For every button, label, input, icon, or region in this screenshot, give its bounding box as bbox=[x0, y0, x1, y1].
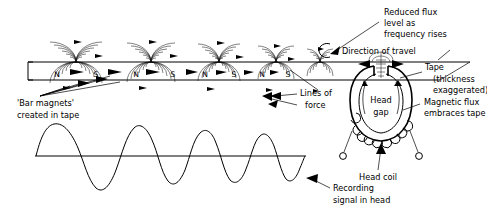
waveform-trace bbox=[36, 124, 305, 190]
svg-text:level as: level as bbox=[384, 18, 415, 28]
recording-signal-label: Recording signal in head bbox=[333, 183, 390, 205]
recording-signal-waveform bbox=[35, 124, 330, 190]
svg-text:gap: gap bbox=[373, 107, 388, 117]
pole-label: N bbox=[54, 70, 60, 79]
svg-text:(thickness: (thickness bbox=[433, 74, 475, 84]
svg-text:Magnetic flux: Magnetic flux bbox=[424, 97, 479, 107]
recording-signal-leader bbox=[306, 174, 330, 188]
lines-of-force-label: Lines of force bbox=[300, 88, 333, 110]
svg-text:'Bar magnets': 'Bar magnets' bbox=[17, 98, 74, 108]
tape-label: Tape (thickness exaggerated) bbox=[424, 62, 487, 95]
pole-label: S bbox=[286, 70, 291, 79]
pole-label: N bbox=[133, 70, 139, 79]
svg-text:exaggerated): exaggerated) bbox=[433, 85, 487, 95]
pole-label: N bbox=[259, 70, 265, 79]
head-gap-label: Head gap bbox=[370, 95, 391, 117]
svg-text:Head: Head bbox=[370, 95, 391, 105]
pole-label: N bbox=[202, 70, 208, 79]
svg-text:frequency rises: frequency rises bbox=[384, 29, 447, 39]
svg-text:Recording: Recording bbox=[333, 183, 374, 193]
diagram-canvas: N S N S N S N S bbox=[0, 0, 487, 217]
terminal-right bbox=[416, 153, 423, 160]
head-coil-label: Head coil bbox=[359, 172, 397, 182]
svg-text:Reduced flux: Reduced flux bbox=[384, 7, 437, 17]
bar-magnets-label: 'Bar magnets' created in tape bbox=[17, 98, 79, 120]
svg-text:force: force bbox=[305, 100, 326, 110]
svg-text:created in tape: created in tape bbox=[17, 110, 79, 120]
terminal-left bbox=[340, 153, 347, 160]
tape-recording-diagram: N S N S N S N S bbox=[0, 0, 487, 217]
svg-text:embraces tape: embraces tape bbox=[424, 108, 485, 118]
reduced-flux-label: Reduced flux level as frequency rises bbox=[384, 7, 447, 39]
pole-label: S bbox=[171, 70, 176, 79]
direction-of-travel-label: Direction of travel bbox=[342, 46, 416, 56]
bar-magnets-leaders bbox=[40, 76, 120, 96]
flux-loops-group bbox=[50, 40, 333, 93]
magnetic-flux-label: Magnetic flux embraces tape bbox=[424, 97, 485, 118]
svg-text:Tape: Tape bbox=[424, 62, 444, 72]
svg-text:signal in head: signal in head bbox=[333, 195, 390, 205]
svg-text:Lines of: Lines of bbox=[300, 88, 333, 98]
pole-label: S bbox=[232, 70, 237, 79]
